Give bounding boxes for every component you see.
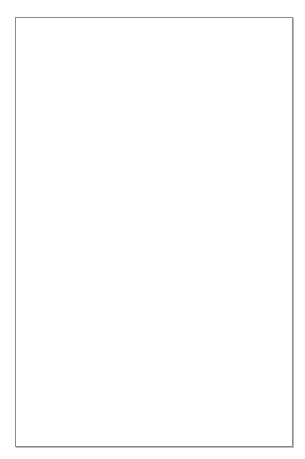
dendrogram-tree [0,0,305,459]
